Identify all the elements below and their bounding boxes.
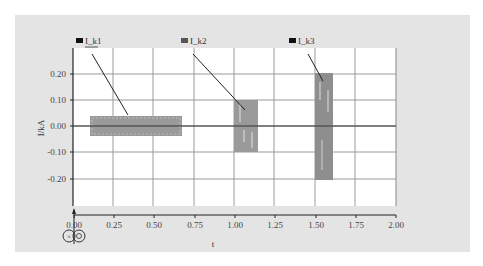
legend: I_k1 I_k2 I_k3 [76,36,315,47]
y-tick-label: 0.10 [50,95,66,105]
y-axis-title: I/kA [36,119,46,136]
legend-swatch-i-k3 [289,38,296,43]
cursor-cross-icon: × [67,233,71,241]
x-tick-label: 1.50 [308,220,324,230]
x-tick-label: 0.25 [106,220,122,230]
x-axis-title: t [212,239,215,249]
legend-label-i-k1[interactable]: I_k1 [85,36,102,46]
y-tick-label: 0.00 [50,121,66,131]
legend-label-i-k2[interactable]: I_k2 [190,36,207,46]
y-tick-label: -0.20 [47,174,66,184]
chart-svg: 0.20 0.10 0.00 -0.10 -0.20 I/kA I_k1 I_k… [0,0,483,266]
legend-label-i-k3[interactable]: I_k3 [298,36,315,46]
x-tick-label: 1.00 [227,220,243,230]
y-tick-label: -0.10 [47,147,66,157]
x-tick-label: 0.50 [146,220,162,230]
legend-swatch-i-k1 [76,38,83,43]
x-tick-label: 2.00 [388,220,404,230]
y-tick-label: 0.20 [50,69,66,79]
x-tick-label: 1.75 [348,220,364,230]
legend-swatch-i-k2 [181,38,188,43]
cursor-arrow-icon [72,208,76,214]
x-tick-label: 1.25 [267,220,283,230]
x-tick-label: 0.75 [187,220,203,230]
cursor-circle-icon [77,234,82,239]
